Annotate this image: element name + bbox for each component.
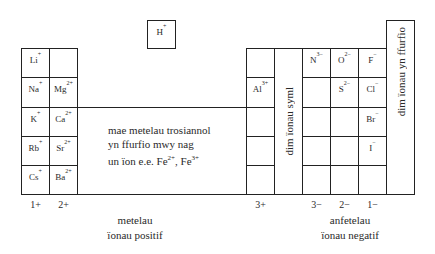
- ion-symbol: Na: [29, 84, 40, 94]
- cell-o: O2−: [330, 48, 359, 78]
- cell-be-empty: [49, 48, 78, 78]
- note-text: un ïon e.e. Fe: [108, 155, 168, 167]
- note-line-2: yn ffurfio mwy nag: [108, 137, 211, 151]
- cell-empty: [302, 165, 331, 195]
- cell-ca: Ca2+: [49, 107, 78, 137]
- cell-empty: [246, 107, 275, 137]
- charge-label-g6: 2−: [330, 199, 359, 210]
- charge-label-g3: 3+: [246, 199, 275, 210]
- group4-no-simple-ions: dim ïonau syml: [274, 48, 303, 195]
- note-line-1: mae metelau trosiannol: [108, 123, 211, 137]
- nonmetals-label-line1: anfetelau: [300, 213, 400, 228]
- metals-label: metelau ïonau positif: [90, 213, 180, 243]
- metals-label-line1: metelau: [90, 213, 180, 228]
- group4-label: dim ïonau syml: [283, 87, 295, 155]
- ion-symbol: Li: [30, 55, 38, 65]
- ion-symbol: N: [310, 55, 317, 65]
- cell-empty: [302, 107, 331, 137]
- cell-i: I−: [358, 136, 387, 166]
- transition-metals-note: mae metelau trosiannol yn ffurfio mwy na…: [108, 123, 211, 168]
- cell-sr: Sr2+: [49, 136, 78, 166]
- metals-label-line2: ïonau positif: [90, 228, 180, 243]
- ion-symbol: Cl: [367, 84, 376, 94]
- ion-symbol: Cs: [29, 172, 39, 182]
- cell-empty: [246, 136, 275, 166]
- cell-empty: [246, 165, 275, 195]
- cell-al: Al3+: [246, 77, 275, 108]
- cell-empty: [330, 107, 359, 137]
- cell-empty: [358, 165, 387, 195]
- cell-k: K+: [21, 107, 50, 137]
- cell-hydrogen: H+: [147, 20, 176, 49]
- ion-symbol: Sr: [56, 143, 64, 153]
- ion-symbol: Al: [253, 84, 262, 94]
- cell-n: N3−: [302, 48, 331, 78]
- cell-cs: Cs+: [21, 165, 50, 195]
- charge-label-g7: 1−: [358, 199, 387, 210]
- cell-empty: [330, 165, 359, 195]
- cell-empty: [302, 136, 331, 166]
- group0-label: dim ïonau yn ffurfio: [395, 27, 407, 116]
- fe3-charge: 3+: [192, 154, 199, 162]
- ion-symbol: O: [338, 55, 345, 65]
- ion-symbol: Rb: [29, 143, 40, 153]
- cell-s: S2−: [330, 77, 359, 108]
- ion-symbol: Mg: [54, 84, 67, 94]
- cell-empty: [330, 136, 359, 166]
- charge-label-g5: 3−: [302, 199, 331, 210]
- nonmetals-label-line2: ïonau negatif: [300, 228, 400, 243]
- ion-symbol: Ba: [55, 172, 65, 182]
- ion-symbol: Br: [366, 114, 375, 124]
- cell-f: F−: [358, 48, 387, 78]
- charge-label-g2: 2+: [49, 199, 78, 210]
- cell-ba: Ba2+: [49, 165, 78, 195]
- cell-rb: Rb+: [21, 136, 50, 166]
- cell-mg: Mg2+: [49, 77, 78, 108]
- cell-na: Na+: [21, 77, 50, 108]
- cell-empty: [302, 77, 331, 108]
- cell-cl: Cl−: [358, 77, 387, 108]
- cell-br: Br−: [358, 107, 387, 137]
- note-line-3: un ïon e.e. Fe2+, Fe3+: [108, 151, 211, 168]
- fe2-charge: 2+: [168, 154, 175, 162]
- cell-li: Li+: [21, 48, 50, 78]
- charge-label-g1: 1+: [21, 199, 50, 210]
- ion-symbol: Ca: [55, 114, 65, 124]
- group0-no-ions: dim ïonau yn ffurfio: [386, 20, 415, 195]
- cell-b-empty: [246, 48, 275, 78]
- nonmetals-label: anfetelau ïonau negatif: [300, 213, 400, 243]
- note-text: , Fe: [175, 155, 192, 167]
